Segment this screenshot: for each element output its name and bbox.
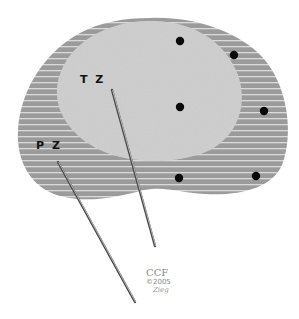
- prostate-diagram: T Z P Z CCF ©2005 Zieg: [0, 0, 299, 319]
- logo-text: CCF: [146, 267, 168, 278]
- dot: [252, 172, 260, 180]
- dot: [230, 51, 238, 59]
- dot: [176, 37, 184, 45]
- pz-label: P Z: [36, 139, 62, 152]
- dot: [260, 107, 268, 115]
- transition-zone: [57, 21, 242, 161]
- dot: [176, 103, 184, 111]
- logo-signature: Zieg: [152, 286, 169, 294]
- tz-label: T Z: [80, 73, 105, 86]
- logo-copyright: ©2005: [146, 278, 171, 286]
- ccf-logo: CCF ©2005 Zieg: [146, 267, 171, 294]
- dot: [175, 174, 183, 182]
